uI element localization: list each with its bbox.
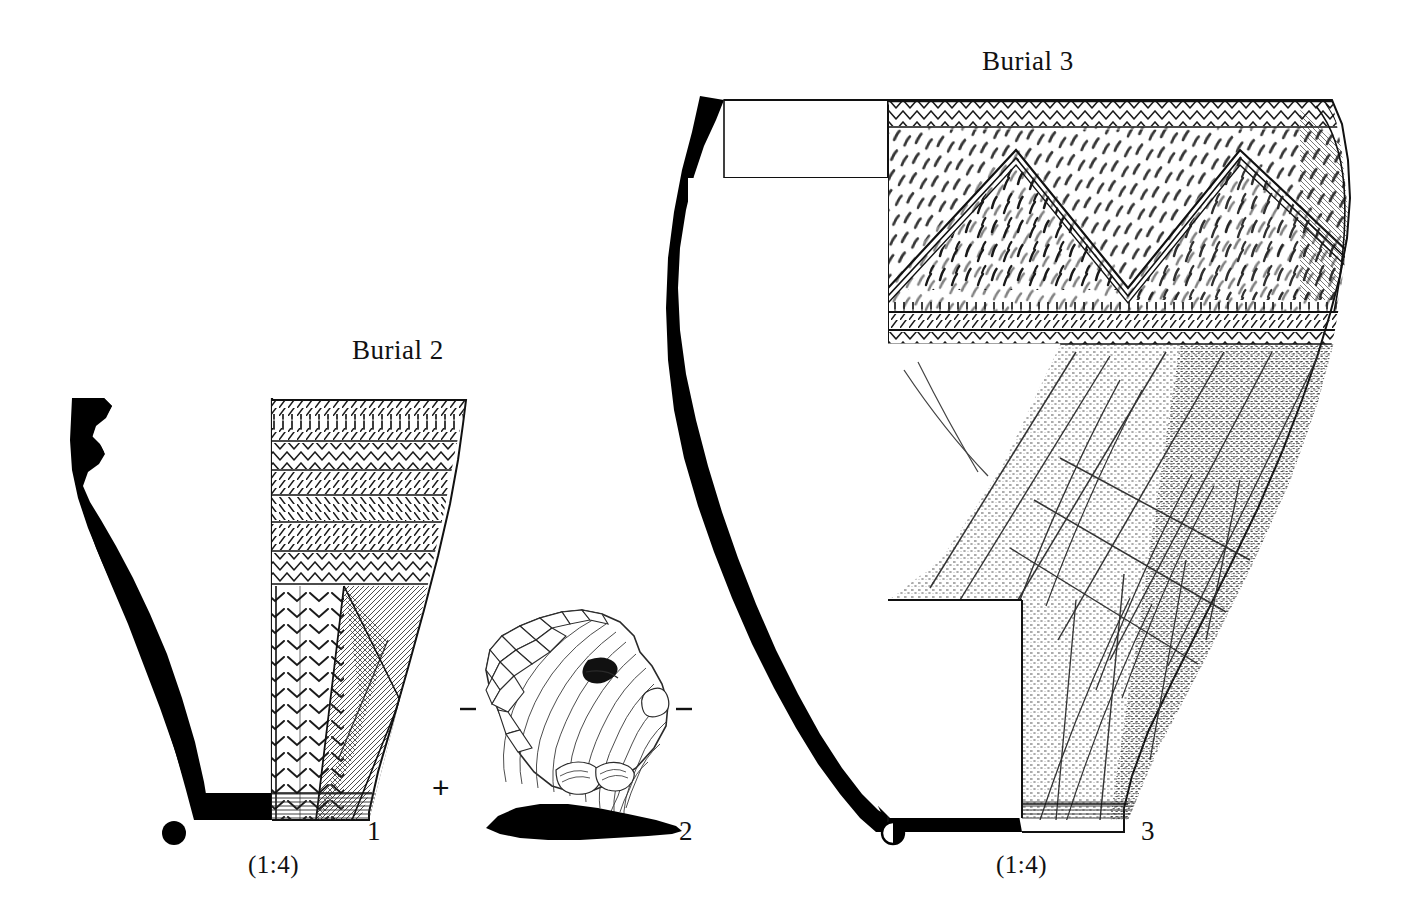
figure-number-2: 2 bbox=[679, 818, 693, 845]
scale-label-right: (1:4) bbox=[996, 852, 1047, 877]
vessel-1-decoration bbox=[272, 399, 472, 820]
figure-1-vessel bbox=[70, 398, 472, 845]
vessel-3-fabric-marker bbox=[882, 822, 904, 844]
vessel-1-fabric-marker bbox=[162, 821, 186, 845]
burial-3-label: Burial 3 bbox=[982, 48, 1074, 75]
vessel-1-section-inner bbox=[72, 398, 272, 820]
flint-section-profile bbox=[486, 804, 682, 840]
vessel-3-upper-decoration bbox=[888, 100, 1358, 313]
illustration-plate bbox=[0, 0, 1428, 923]
plus-mark: + bbox=[432, 773, 450, 803]
scale-label-left: (1:4) bbox=[248, 852, 299, 877]
flint-basal-scars bbox=[556, 762, 634, 794]
vessel-1-base-slab bbox=[196, 793, 272, 820]
burial-2-label: Burial 2 bbox=[352, 337, 444, 364]
figure-number-3: 3 bbox=[1141, 818, 1155, 845]
vessel-3-rim-interior-line bbox=[724, 100, 888, 178]
vessel-3-divider-band bbox=[888, 312, 1348, 344]
figure-number-1: 1 bbox=[367, 818, 381, 845]
figure-3-vessel bbox=[666, 96, 1358, 844]
flint-edge-scar bbox=[642, 688, 669, 717]
figure-2-flint bbox=[460, 610, 692, 840]
